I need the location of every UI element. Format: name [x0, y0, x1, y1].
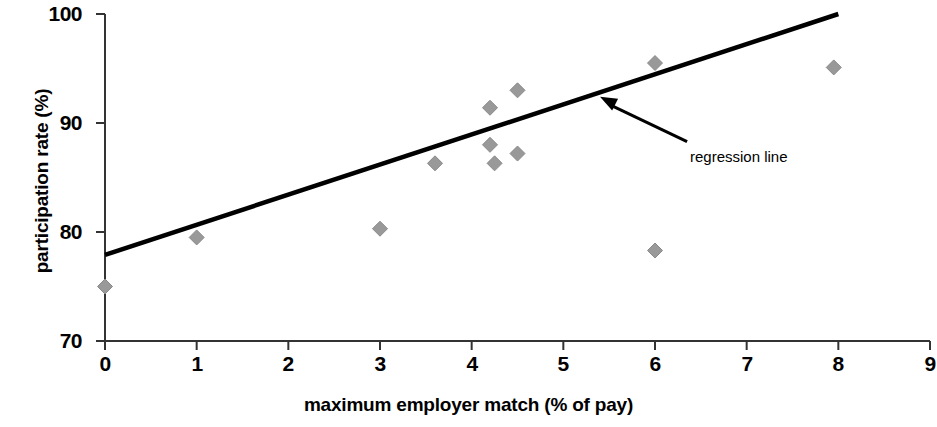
data-point-marker — [648, 56, 663, 71]
data-point-marker — [373, 221, 388, 236]
data-point-marker — [487, 156, 502, 171]
data-point-marker — [826, 60, 841, 75]
data-point-marker — [189, 230, 204, 245]
data-point-marker — [483, 137, 498, 152]
data-point-marker — [510, 146, 525, 161]
annotation-arrow-shaft — [609, 104, 687, 141]
data-point-marker — [98, 279, 113, 294]
data-point-marker — [483, 100, 498, 115]
annotation-arrow — [600, 97, 687, 142]
data-point-marker — [510, 83, 525, 98]
regression-line — [105, 14, 838, 255]
data-point-marker — [428, 156, 443, 171]
plot-area — [0, 0, 937, 427]
regression-line-path — [105, 14, 838, 255]
data-point-marker — [648, 243, 663, 258]
x-axis-ticks — [105, 341, 930, 350]
scatter-chart: participation rate (%) 100 90 80 70 0 1 … — [0, 0, 937, 427]
data-point-markers — [98, 56, 842, 294]
axis-lines — [105, 14, 930, 341]
